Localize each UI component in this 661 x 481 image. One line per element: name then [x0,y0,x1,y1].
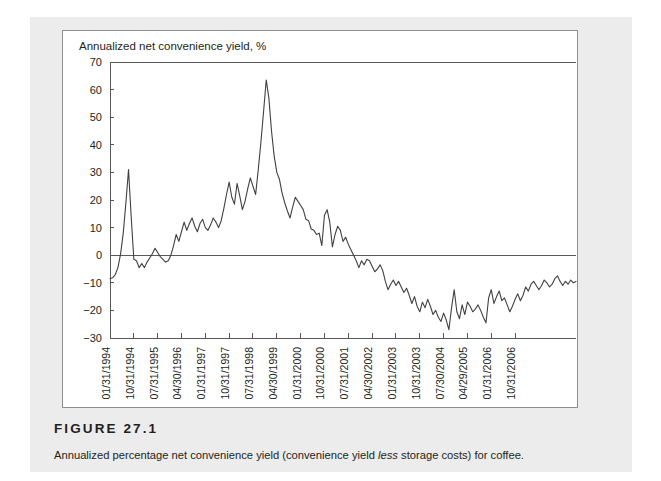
x-tick-label: 07/31/1995 [148,347,160,400]
x-tick-label: 10/31/1994 [124,347,136,400]
y-tick-label: −30 [83,332,102,344]
caption-emphasis: less [378,449,398,461]
x-tick-label: 10/31/1997 [219,347,231,400]
y-tick-label: 10 [90,222,102,234]
x-tick-label: 01/31/2003 [386,347,398,400]
y-tick-label: 40 [90,139,102,151]
x-tick-label: 04/30/1999 [267,347,279,400]
x-tick-label: 07/31/1998 [243,347,255,400]
y-tick-label: −10 [83,277,102,289]
x-tick-label: 07/31/2001 [338,347,350,400]
y-tick-label: 30 [90,166,102,178]
convenience-yield-line-chart: 706050403020100−10−20−3001/31/199410/31/… [63,31,579,409]
x-tick-label: 04/30/2002 [362,347,374,400]
x-tick-label: 01/31/1994 [100,347,112,400]
x-tick-label: 01/31/1997 [195,347,207,400]
x-tick-label: 01/31/2000 [291,347,303,400]
y-tick-label: 60 [90,84,102,96]
figure-number: FIGURE 27.1 [54,421,158,436]
y-tick-label: 70 [90,56,102,68]
plot-area: 706050403020100−10−20−3001/31/199410/31/… [63,31,579,409]
figure-panel: Annualized net convenience yield, % 7060… [30,17,632,472]
y-tick-label: 20 [90,194,102,206]
chart-card: Annualized net convenience yield, % 7060… [62,30,578,408]
x-tick-label: 04/29/2005 [457,347,469,400]
caption-text-before: Annualized percentage net convenience yi… [54,449,378,461]
x-tick-label: 10/31/2003 [410,347,422,400]
x-tick-label: 01/31/2006 [481,347,493,400]
x-tick-label: 10/31/2000 [314,347,326,400]
x-tick-label: 07/30/2004 [434,347,446,400]
y-tick-label: 50 [90,111,102,123]
figure-caption: Annualized percentage net convenience yi… [54,448,614,464]
caption-text-after: storage costs) for coffee. [398,449,524,461]
y-tick-label: −20 [83,304,102,316]
series-line-annualized-net-convenience-yield [110,80,576,330]
x-tick-label: 10/31/2006 [505,347,517,400]
x-tick-label: 04/30/1996 [171,347,183,400]
y-tick-label: 0 [96,249,102,261]
